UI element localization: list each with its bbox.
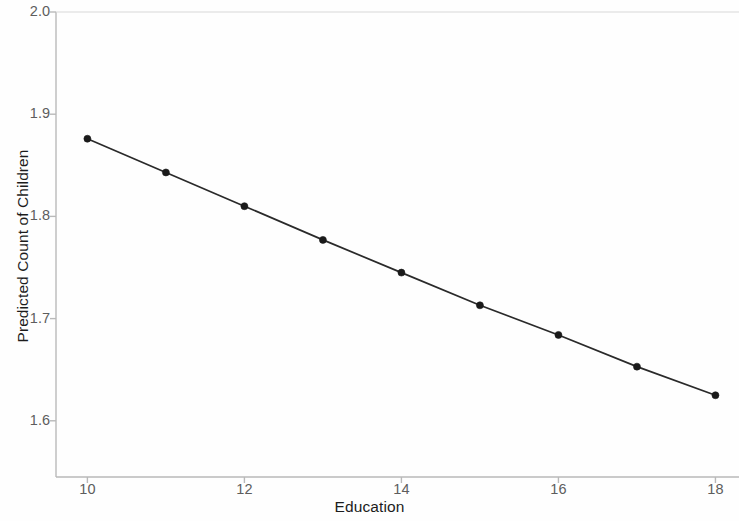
series-polyline: [87, 139, 715, 396]
plot-area: [0, 0, 739, 521]
data-point-marker: [398, 269, 405, 276]
chart-container: Predicted Count of Children Education 1.…: [0, 0, 739, 521]
data-line-series: [87, 139, 715, 396]
data-point-marker: [712, 392, 719, 399]
axis-tick-marks: [50, 12, 715, 483]
data-point-markers: [84, 135, 719, 399]
data-point-marker: [162, 169, 169, 176]
data-point-marker: [633, 363, 640, 370]
data-point-marker: [84, 135, 91, 142]
data-point-marker: [319, 236, 326, 243]
data-point-marker: [241, 203, 248, 210]
data-point-marker: [476, 302, 483, 309]
axis-lines: [56, 12, 739, 477]
data-point-marker: [555, 331, 562, 338]
